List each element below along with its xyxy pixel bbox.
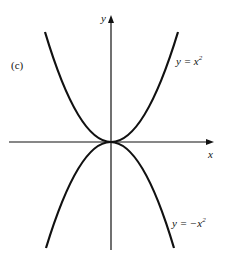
lower-curve-equation: y = −x [172,217,202,229]
lower-curve-label: y = −x2 [172,217,206,229]
figure-c: y x (c) y = x2 y = −x2 [0,0,227,255]
x-axis-arrow-icon [206,139,214,145]
panel-label: (c) [11,60,23,71]
x-axis-label: x [208,149,213,160]
y-axis-label: y [101,13,106,24]
upper-curve-exponent: 2 [199,54,203,62]
upper-curve-equation: y = x [176,55,199,67]
curve-lower-parabola [46,142,174,248]
lower-curve-exponent: 2 [202,216,206,224]
upper-curve-label: y = x2 [176,55,202,67]
y-axis-arrow-icon [108,15,114,23]
